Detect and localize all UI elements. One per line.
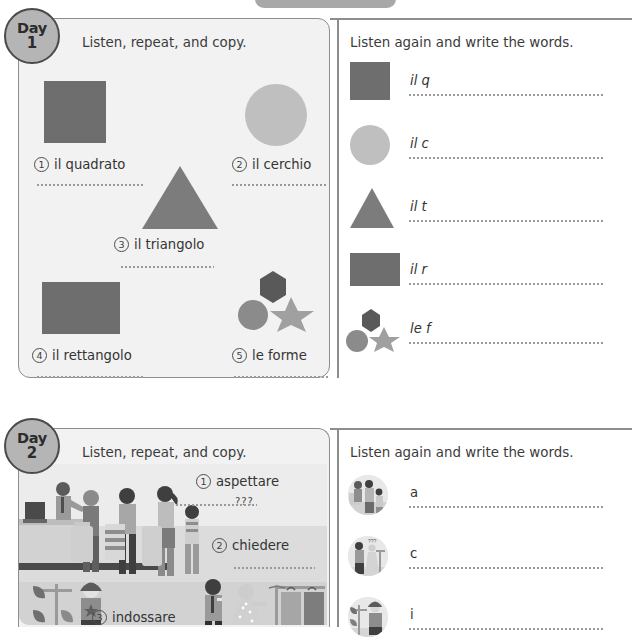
day2-item-number-1: 1 xyxy=(196,474,211,489)
shapes-group xyxy=(237,270,321,332)
write-row-1: il q xyxy=(338,60,610,118)
item-number-3: 3 xyxy=(114,237,129,252)
item-text-4: il rettangolo xyxy=(52,348,132,363)
shapes-group-svg xyxy=(237,270,321,332)
writing-line-2[interactable] xyxy=(231,184,327,186)
day2-top-rule xyxy=(330,428,632,430)
item-text-5: le forme xyxy=(252,348,307,363)
day2-item-number-3: 3 xyxy=(92,610,107,625)
write-prompt-4: il r xyxy=(410,262,427,277)
day2-write-prompt-3: i xyxy=(410,607,414,622)
day2-item-text-1: aspettare xyxy=(216,474,279,489)
item-label-2: 2 il cerchio xyxy=(232,157,311,172)
day2-write-line-3[interactable] xyxy=(408,628,604,630)
queue-photo-thumbnail xyxy=(348,475,388,515)
day2-writing-line-2[interactable] xyxy=(233,567,315,569)
day1-top-rule xyxy=(330,18,632,20)
item-number-1: 1 xyxy=(34,157,49,172)
write-prompt-2: il c xyxy=(410,136,429,151)
item-label-5: 5 le forme xyxy=(232,348,307,363)
writing-line-4[interactable] xyxy=(36,376,144,378)
item-label-1: 1 il quadrato xyxy=(34,157,125,172)
day2-write-row-2: ??? c xyxy=(338,533,610,591)
write-prompt-1: il q xyxy=(410,73,430,88)
day2-item-number-2: 2 xyxy=(212,538,227,553)
day2-item-label-1: 1 aspettare xyxy=(196,474,279,489)
write-line-2[interactable] xyxy=(408,157,604,159)
write-prompt-3: il t xyxy=(410,199,427,214)
day2-right-instruction: Listen again and write the words. xyxy=(350,445,574,460)
asking-thumb-svg: ??? xyxy=(348,536,388,576)
day-unit-2: Day 2 Listen, repeat, and copy. Listen a… xyxy=(0,428,632,627)
circle-shape-thumb xyxy=(350,125,390,165)
write-row-4: il r xyxy=(338,249,610,307)
square-shape-thumb xyxy=(350,62,390,100)
writing-line-1[interactable] xyxy=(36,184,144,186)
day2-write-line-2[interactable] xyxy=(408,567,604,569)
day-unit-1: Day 1 Listen, repeat, and copy. Listen a… xyxy=(0,18,632,378)
day2-write-prompt-2: c xyxy=(410,546,417,561)
day1-right-instruction: Listen again and write the words. xyxy=(350,35,574,50)
item-text-2: il cerchio xyxy=(252,157,311,172)
wearing-photo-thumbnail xyxy=(348,597,388,637)
circle-shape xyxy=(245,84,307,146)
write-line-1[interactable] xyxy=(408,94,604,96)
write-prompt-5: le f xyxy=(410,321,431,336)
page-header-banner xyxy=(255,0,396,8)
day-badge-number-2: 2 xyxy=(27,446,37,461)
day2-write-row-1: a xyxy=(338,472,610,530)
day2-item-text-2: chiedere xyxy=(232,538,289,553)
day2-left-instruction: Listen, repeat, and copy. xyxy=(82,445,247,460)
write-line-5[interactable] xyxy=(408,342,604,344)
day-badge-2: Day 2 xyxy=(4,418,60,474)
day-badge-number: 1 xyxy=(27,36,37,51)
shapes-group-thumb-svg xyxy=(346,308,404,352)
asking-photo-thumbnail: ??? xyxy=(348,536,388,576)
item-text-1: il quadrato xyxy=(54,157,125,172)
day1-left-instruction: Listen, repeat, and copy. xyxy=(82,35,247,50)
writing-line-3[interactable] xyxy=(120,266,214,268)
rectangle-shape xyxy=(42,282,120,334)
write-line-4[interactable] xyxy=(408,283,604,285)
write-row-2: il c xyxy=(338,123,610,181)
writing-line-5[interactable] xyxy=(233,376,329,378)
day2-item-label-3: 3 indossare xyxy=(92,610,176,625)
write-row-5: le f xyxy=(338,308,610,366)
day2-item-label-2: 2 chiedere xyxy=(212,538,289,553)
day2-writing-line-1[interactable] xyxy=(175,504,257,506)
triangle-shape xyxy=(142,166,218,229)
svg-text:???: ??? xyxy=(368,538,377,544)
wearing-thumb-svg xyxy=(348,597,388,637)
square-shape xyxy=(44,81,106,143)
day2-item-text-3: indossare xyxy=(112,610,176,625)
item-label-4: 4 il rettangolo xyxy=(32,348,132,363)
item-label-3: 3 il triangolo xyxy=(114,237,204,252)
queue-thumb-svg xyxy=(348,475,388,515)
day-badge-1: Day 1 xyxy=(4,8,60,64)
rectangle-shape-thumb xyxy=(350,253,400,286)
item-number-5: 5 xyxy=(232,348,247,363)
item-text-3: il triangolo xyxy=(134,237,204,252)
triangle-shape-thumb xyxy=(350,188,394,228)
item-number-2: 2 xyxy=(232,157,247,172)
day2-write-row-3: i xyxy=(338,594,610,641)
write-line-3[interactable] xyxy=(408,220,604,222)
shapes-group-thumb xyxy=(346,308,404,356)
day2-write-line-1[interactable] xyxy=(408,506,604,508)
item-number-4: 4 xyxy=(32,348,47,363)
write-row-3: il t xyxy=(338,186,610,244)
day2-write-prompt-1: a xyxy=(410,485,418,500)
